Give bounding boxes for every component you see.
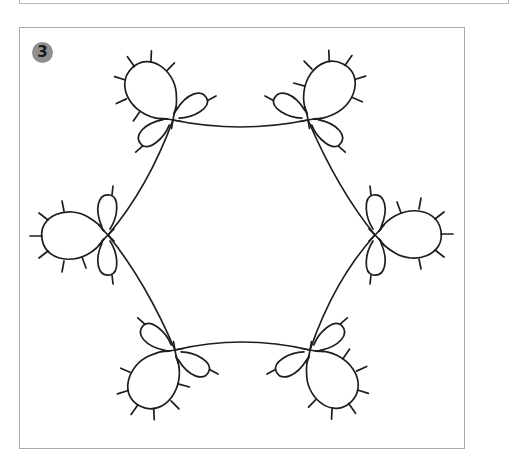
- chain-bottom: [175, 342, 310, 350]
- chain-bottom-right: [310, 235, 375, 350]
- motif-bottom-right: [265, 315, 395, 442]
- chain-top-left: [108, 120, 173, 235]
- motif-bottom-left: [90, 315, 220, 442]
- chains: [108, 120, 375, 350]
- motif-right: [366, 186, 453, 284]
- chain-top: [173, 120, 308, 127]
- motif-top-right: [263, 28, 393, 155]
- motif-left: [30, 186, 117, 284]
- motif-top-left: [88, 28, 218, 155]
